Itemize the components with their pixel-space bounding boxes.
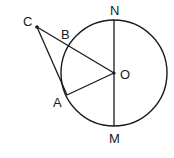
label-n: N xyxy=(110,3,119,18)
point-c-dot xyxy=(35,25,39,29)
label-c: C xyxy=(23,14,32,29)
label-m: M xyxy=(109,131,120,146)
geometry-diagram: C B O A N M xyxy=(0,0,174,158)
label-a: A xyxy=(53,95,62,110)
label-o: O xyxy=(120,67,130,82)
segment-ao xyxy=(67,73,114,95)
label-b: B xyxy=(61,27,70,42)
segment-co xyxy=(37,27,114,73)
point-o-dot xyxy=(112,71,115,74)
